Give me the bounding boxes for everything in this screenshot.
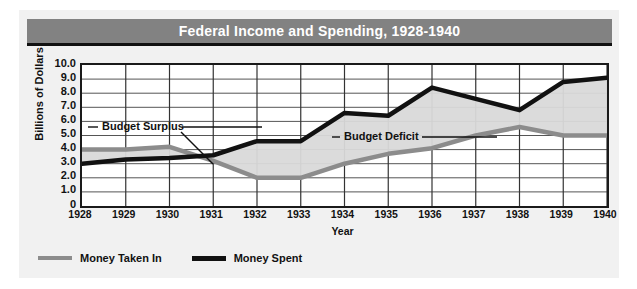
legend-item[interactable]: Money Spent (192, 252, 302, 264)
chart-figure: Federal Income and Spending, 1928-1940 B… (0, 0, 637, 289)
x-tick-label: 1937 (452, 208, 496, 220)
x-tick-label: 1939 (539, 208, 583, 220)
legend-label: Money Spent (234, 252, 302, 264)
chart-title-bar: Federal Income and Spending, 1928-1940 (27, 19, 612, 46)
y-tick-label: 3.0 (42, 156, 76, 167)
y-tick-label: 5.0 (42, 128, 76, 139)
x-tick-label: 1935 (364, 208, 408, 220)
legend-label: Money Taken In (80, 252, 162, 264)
x-tick-label: 1928 (58, 208, 102, 220)
x-tick-label: 1938 (496, 208, 540, 220)
legend-swatch (38, 256, 72, 260)
y-tick-label: 4.0 (42, 142, 76, 153)
y-axis-ticks: 10.09.08.07.06.05.04.03.02.01.00 (40, 63, 76, 204)
plot-area: Budget Surplus Budget Deficit (80, 63, 609, 208)
x-tick-label: 1931 (189, 208, 233, 220)
x-tick-label: 1940 (583, 208, 627, 220)
page-title: Federal Income and Spending, 1928-1940 (179, 23, 460, 39)
legend-swatch (192, 256, 226, 261)
x-tick-label: 1934 (321, 208, 365, 220)
chart-legend: Money Taken InMoney Spent (38, 250, 332, 266)
y-tick-label: 8.0 (42, 86, 76, 97)
y-tick-label: 1.0 (42, 184, 76, 195)
x-tick-label: 1932 (233, 208, 277, 220)
annotation-budget-surplus: Budget Surplus (102, 120, 184, 132)
y-tick-label: 7.0 (42, 100, 76, 111)
y-tick-label: 2.0 (42, 170, 76, 181)
annotation-budget-deficit: Budget Deficit (344, 130, 419, 142)
x-tick-label: 1930 (146, 208, 190, 220)
x-axis-ticks: 1928192919301931193219331934193519361937… (80, 208, 605, 224)
x-axis-label: Year (80, 225, 605, 237)
x-tick-label: 1929 (102, 208, 146, 220)
y-tick-label: 10.0 (42, 58, 76, 69)
y-tick-label: 6.0 (42, 114, 76, 125)
y-tick-label: 9.0 (42, 72, 76, 83)
x-tick-label: 1933 (277, 208, 321, 220)
x-tick-label: 1936 (408, 208, 452, 220)
legend-item[interactable]: Money Taken In (38, 252, 162, 264)
